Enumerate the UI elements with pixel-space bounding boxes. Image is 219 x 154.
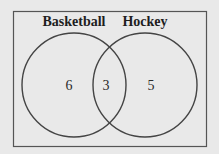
venn-diagram: Basketball Hockey 6 3 5: [0, 0, 219, 154]
hockey-label: Hockey: [122, 14, 167, 29]
hockey-only-count: 5: [148, 78, 155, 93]
basketball-only-count: 6: [66, 78, 73, 93]
basketball-circle: [22, 33, 126, 137]
intersection-count: 3: [103, 78, 110, 93]
basketball-label: Basketball: [42, 14, 105, 29]
